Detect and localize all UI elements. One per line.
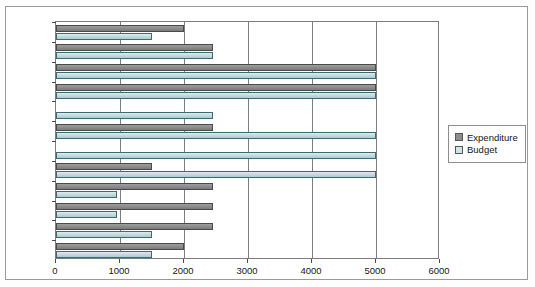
gridline	[312, 22, 313, 258]
bar-expenditure-dec	[56, 25, 184, 32]
x-axis-tick	[55, 259, 56, 263]
bar-budget-mar	[56, 211, 117, 218]
x-axis-label: 3000	[236, 265, 257, 276]
x-axis-label: 1000	[108, 265, 129, 276]
bar-expenditure-jan	[56, 243, 184, 250]
x-axis-label: 4000	[300, 265, 321, 276]
bar-budget-sep	[56, 92, 376, 99]
bar-expenditure-jul	[56, 124, 213, 131]
x-axis-label: 5000	[364, 265, 385, 276]
bar-expenditure-feb	[56, 223, 213, 230]
gridline	[248, 22, 249, 258]
legend-label-budget: Budget	[467, 144, 497, 155]
y-axis-tick	[52, 121, 56, 122]
bar-budget-feb	[56, 231, 152, 238]
x-axis-tick	[375, 259, 376, 263]
y-axis-tick	[52, 161, 56, 162]
chart-legend: Expenditure Budget	[448, 125, 526, 163]
x-axis-tick	[311, 259, 312, 263]
y-axis-tick	[52, 220, 56, 221]
y-axis-tick	[52, 82, 56, 83]
legend-item-budget[interactable]: Budget	[455, 144, 518, 155]
y-axis-tick	[52, 62, 56, 63]
chart-container: Dec.Nov.Oct.Sep.Aug.Jul.Jun.MayApr.Mar.F…	[0, 0, 535, 287]
plot-area: Dec.Nov.Oct.Sep.Aug.Jul.Jun.MayApr.Mar.F…	[55, 21, 439, 259]
x-axis-label: 2000	[172, 265, 193, 276]
gridline	[376, 22, 377, 258]
x-axis-label: 0	[52, 265, 57, 276]
bar-budget-may	[56, 171, 376, 178]
bar-expenditure-nov	[56, 44, 213, 51]
y-axis-tick	[52, 22, 56, 23]
y-axis-tick	[52, 201, 56, 202]
y-axis-tick	[52, 141, 56, 142]
bar-budget-oct	[56, 72, 376, 79]
bar-budget-jul	[56, 132, 376, 139]
legend-item-expenditure[interactable]: Expenditure	[455, 132, 518, 143]
y-axis-tick	[52, 181, 56, 182]
bar-budget-jan	[56, 251, 152, 258]
bar-budget-apr	[56, 191, 117, 198]
bar-expenditure-may	[56, 163, 152, 170]
y-axis-tick	[52, 42, 56, 43]
x-axis: 0100020003000400050006000	[55, 259, 439, 283]
bar-expenditure-apr	[56, 183, 213, 190]
x-axis-tick	[119, 259, 120, 263]
legend-swatch-icon	[455, 146, 463, 154]
x-axis-label: 6000	[428, 265, 449, 276]
x-axis-tick	[439, 259, 440, 263]
bar-expenditure-oct	[56, 64, 376, 71]
y-axis-tick	[52, 240, 56, 241]
y-axis-tick	[52, 101, 56, 102]
legend-swatch-icon	[455, 133, 463, 141]
legend-label-expenditure: Expenditure	[467, 132, 518, 143]
bar-budget-aug	[56, 112, 213, 119]
x-axis-tick	[247, 259, 248, 263]
bar-expenditure-mar	[56, 203, 213, 210]
bar-expenditure-sep	[56, 84, 376, 91]
bar-budget-nov	[56, 52, 213, 59]
bar-budget-jun	[56, 152, 376, 159]
bar-budget-dec	[56, 33, 152, 40]
x-axis-tick	[183, 259, 184, 263]
chart-frame: Dec.Nov.Oct.Sep.Aug.Jul.Jun.MayApr.Mar.F…	[5, 6, 528, 280]
